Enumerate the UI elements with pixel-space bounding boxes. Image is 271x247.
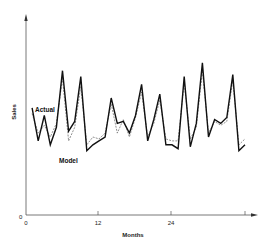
- actual-series-label: Actual: [35, 106, 55, 113]
- x-tick-label-12: 12: [95, 220, 102, 226]
- actual-series-line: [32, 63, 245, 151]
- x-tick-label-24: 24: [168, 220, 175, 226]
- model-series-label: Model: [59, 157, 78, 164]
- x-axis-title: Months: [122, 232, 144, 238]
- x-tick-label-0: 0: [24, 220, 28, 226]
- y-axis-title: Sales: [11, 104, 17, 120]
- y-tick-label-0: 0: [19, 214, 23, 220]
- sales-line-chart: 0 0 12 24 Months Sales Actual Model: [0, 0, 271, 247]
- y-axis-arrow-icon: [24, 14, 27, 21]
- x-axis-arrow-icon: [251, 213, 258, 216]
